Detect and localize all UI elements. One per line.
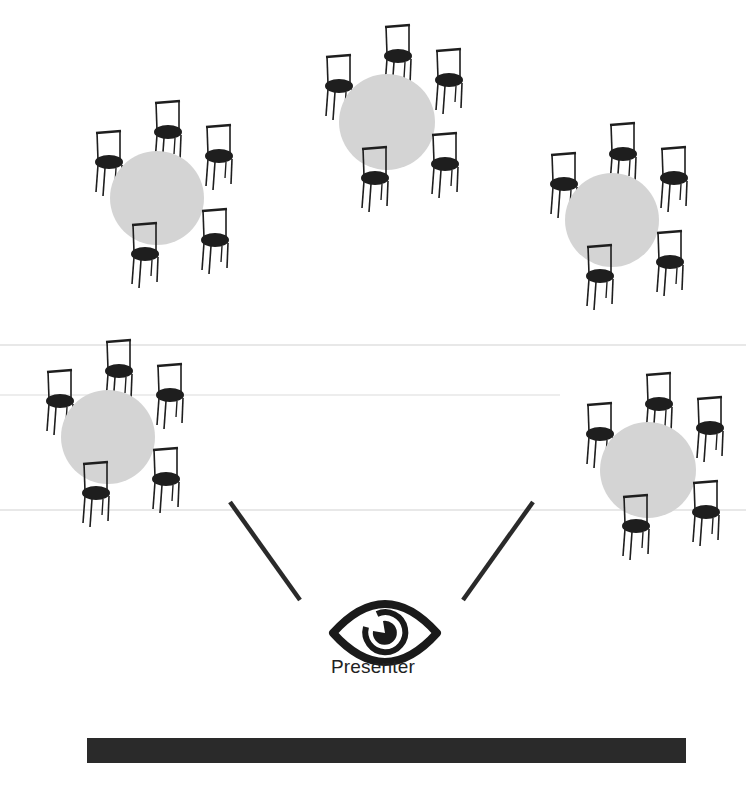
right-sightline: [463, 502, 533, 600]
chair-icon: [692, 481, 720, 546]
chair-icon: [431, 133, 459, 198]
round-table: [61, 390, 155, 484]
chair-icon: [656, 231, 684, 296]
chair-icon: [156, 364, 184, 429]
round-table: [110, 151, 204, 245]
left-sightline: [230, 502, 300, 600]
eye-icon: [333, 604, 437, 662]
table-3: [550, 123, 688, 310]
chair-icon: [201, 209, 229, 274]
table-2: [325, 25, 463, 212]
round-table: [600, 422, 696, 518]
sightlines-group: [230, 502, 533, 600]
round-table: [339, 74, 435, 170]
table-1: [95, 101, 233, 288]
chair-icon: [696, 397, 724, 462]
table-5: [586, 373, 724, 560]
presenter-label: Presenter: [0, 656, 746, 678]
seating-diagram: Presenter: [0, 0, 746, 795]
tables-group: [46, 25, 724, 560]
round-table: [565, 173, 659, 267]
chair-icon: [152, 448, 180, 513]
whiteboard-bar: [87, 738, 686, 763]
chair-icon: [205, 125, 233, 190]
table-4: [46, 340, 184, 527]
chair-icon: [660, 147, 688, 212]
chair-icon: [435, 49, 463, 114]
